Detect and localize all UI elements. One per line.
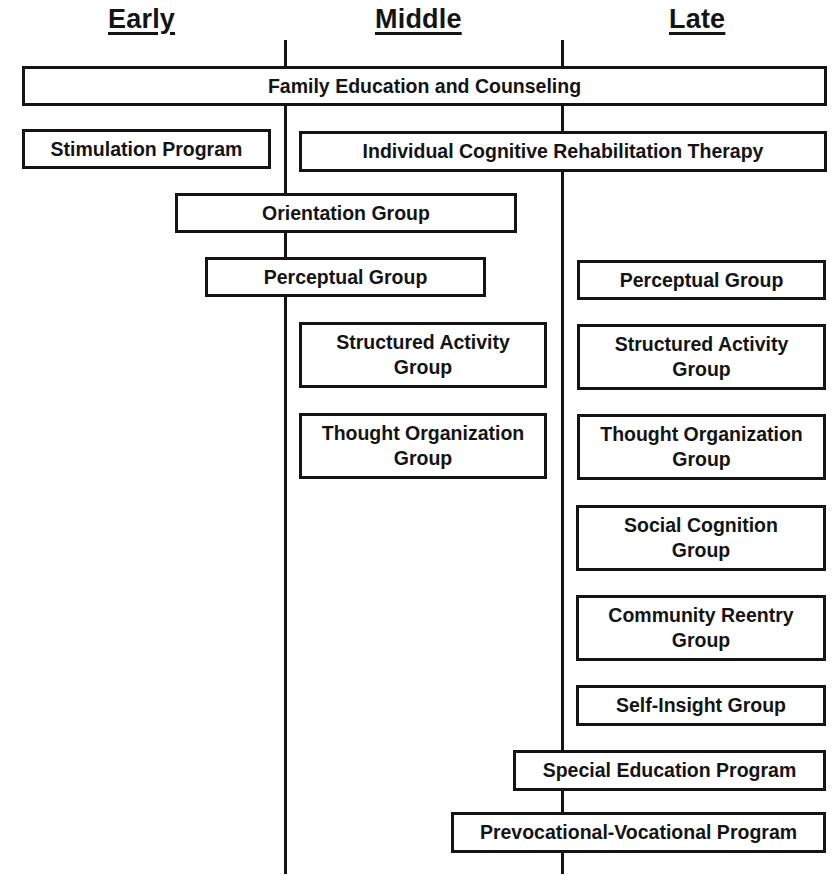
program-label-line2: Group bbox=[336, 355, 510, 380]
program-perceptual-late: Perceptual Group bbox=[577, 260, 826, 300]
program-label-line2: Group bbox=[624, 538, 778, 563]
program-label: Self-Insight Group bbox=[616, 693, 786, 718]
program-structured-middle: Structured Activity Group bbox=[299, 322, 547, 388]
program-label: Family Education and Counseling bbox=[268, 74, 581, 99]
program-label: Perceptual Group bbox=[620, 268, 784, 293]
program-label-line1: Structured Activity bbox=[336, 330, 510, 355]
program-label: Special Education Program bbox=[543, 758, 797, 783]
program-label: Perceptual Group bbox=[264, 265, 428, 290]
phase-header-middle: Middle bbox=[375, 4, 462, 35]
program-label-line1: Thought Organization bbox=[600, 422, 803, 447]
divider-early-middle bbox=[284, 40, 287, 874]
program-label: Prevocational-Vocational Program bbox=[480, 820, 797, 845]
program-community-reentry: Community Reentry Group bbox=[576, 595, 826, 661]
program-family-education: Family Education and Counseling bbox=[22, 66, 827, 106]
phase-header-late: Late bbox=[669, 4, 725, 35]
program-label: Individual Cognitive Rehabilitation Ther… bbox=[363, 139, 764, 164]
program-special-education: Special Education Program bbox=[513, 750, 826, 791]
program-label: Orientation Group bbox=[262, 201, 430, 226]
program-individual-crt: Individual Cognitive Rehabilitation Ther… bbox=[299, 131, 827, 172]
program-label: Stimulation Program bbox=[51, 137, 243, 162]
program-social-cognition: Social Cognition Group bbox=[576, 505, 826, 571]
program-thought-middle: Thought Organization Group bbox=[299, 413, 547, 479]
program-perceptual-early: Perceptual Group bbox=[205, 257, 486, 297]
program-prevocational: Prevocational-Vocational Program bbox=[451, 812, 826, 853]
program-label-line1: Structured Activity bbox=[615, 332, 789, 357]
program-label-line1: Social Cognition bbox=[624, 513, 778, 538]
program-label-line2: Group bbox=[322, 446, 525, 471]
program-structured-late: Structured Activity Group bbox=[577, 324, 826, 390]
program-stimulation: Stimulation Program bbox=[22, 129, 271, 169]
phase-header-early: Early bbox=[108, 4, 175, 35]
program-thought-late: Thought Organization Group bbox=[577, 414, 826, 480]
program-orientation: Orientation Group bbox=[175, 193, 517, 233]
program-label-line2: Group bbox=[600, 447, 803, 472]
program-label-line2: Group bbox=[608, 628, 793, 653]
program-self-insight: Self-Insight Group bbox=[576, 685, 826, 726]
program-label-line2: Group bbox=[615, 357, 789, 382]
program-label-line1: Community Reentry bbox=[608, 603, 793, 628]
program-label-line1: Thought Organization bbox=[322, 421, 525, 446]
